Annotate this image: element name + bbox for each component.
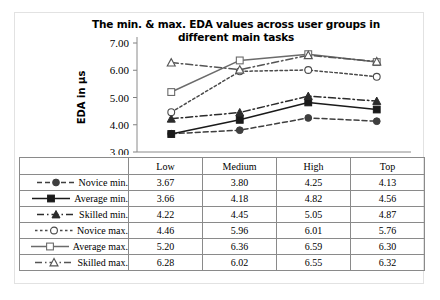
table-cell: 4.22 bbox=[129, 207, 203, 223]
data-table: LowMediumHighTop Novice min.3.673.804.25… bbox=[19, 157, 425, 271]
legend-key-filled-circle-icon bbox=[36, 177, 76, 188]
table-row: Novice max.4.465.966.015.76 bbox=[20, 223, 425, 239]
table-cell: 6.28 bbox=[129, 255, 203, 271]
legend-label: Average min. bbox=[74, 193, 128, 204]
svg-text:4.00: 4.00 bbox=[110, 119, 130, 131]
legend-entry: Skilled max. bbox=[20, 255, 129, 271]
table-cell: 4.56 bbox=[351, 191, 425, 207]
plot-area: EDA in µs 3.004.005.006.007.00 bbox=[15, 13, 423, 155]
svg-text:6.00: 6.00 bbox=[110, 64, 130, 76]
series-line bbox=[171, 118, 377, 134]
table-cell: 4.13 bbox=[351, 175, 425, 191]
table-column-header: Low bbox=[129, 158, 203, 175]
legend-entry: Skilled min. bbox=[20, 207, 129, 223]
series-line bbox=[171, 102, 377, 134]
table-row: Average min.3.664.184.824.56 bbox=[20, 191, 425, 207]
svg-text:7.00: 7.00 bbox=[110, 37, 130, 49]
legend-key-filled-triangle-icon bbox=[36, 209, 76, 220]
data-table-area: LowMediumHighTop Novice min.3.673.804.25… bbox=[15, 155, 423, 283]
legend-entry: Average min. bbox=[20, 191, 129, 207]
table-cell: 3.67 bbox=[129, 175, 203, 191]
legend-key-open-square-icon bbox=[30, 241, 70, 252]
table-row: Novice min.3.673.804.254.13 bbox=[20, 175, 425, 191]
table-cell: 5.76 bbox=[351, 223, 425, 239]
legend-entry: Novice max. bbox=[20, 223, 129, 239]
legend-key-filled-square-icon bbox=[31, 193, 71, 204]
table-cell: 4.87 bbox=[351, 207, 425, 223]
table-cell: 4.18 bbox=[203, 191, 277, 207]
table-cell: 4.45 bbox=[203, 207, 277, 223]
table-column-header: Top bbox=[351, 158, 425, 175]
table-cell: 4.25 bbox=[277, 175, 351, 191]
table-body: Novice min.3.673.804.254.13Average min.3… bbox=[20, 175, 425, 271]
table-cell: 5.20 bbox=[129, 239, 203, 255]
table-cell: 5.96 bbox=[203, 223, 277, 239]
legend-key-open-circle-icon bbox=[34, 225, 74, 236]
series-line bbox=[171, 96, 377, 119]
table-cell: 6.32 bbox=[351, 255, 425, 271]
table-cell: 6.55 bbox=[277, 255, 351, 271]
legend-label: Average max. bbox=[73, 241, 128, 252]
line-chart-svg: EDA in µs 3.004.005.006.007.00 bbox=[15, 13, 423, 155]
svg-text:5.00: 5.00 bbox=[110, 92, 130, 104]
svg-text:EDA in µs: EDA in µs bbox=[76, 71, 87, 125]
legend-label: Novice max. bbox=[77, 225, 128, 236]
table-row: Skilled min.4.224.455.054.87 bbox=[20, 207, 425, 223]
legend-label: Skilled min. bbox=[79, 209, 128, 220]
legend-entry: Novice min. bbox=[20, 175, 129, 191]
table-header-row: LowMediumHighTop bbox=[20, 158, 425, 175]
table-cell: 6.01 bbox=[277, 223, 351, 239]
table-cell: 5.05 bbox=[277, 207, 351, 223]
legend-entry: Average max. bbox=[20, 239, 129, 255]
table-row: Skilled max.6.286.026.556.32 bbox=[20, 255, 425, 271]
y-axis-tick-labels: 3.004.005.006.007.00 bbox=[110, 37, 137, 155]
table-cell: 3.66 bbox=[129, 191, 203, 207]
table-cell: 4.46 bbox=[129, 223, 203, 239]
axis-lines bbox=[137, 37, 411, 152]
chart-figure: The min. & max. EDA values across user g… bbox=[14, 12, 424, 284]
table-cell: 4.82 bbox=[277, 191, 351, 207]
table-cell: 6.59 bbox=[277, 239, 351, 255]
legend-label: Skilled max. bbox=[77, 257, 128, 268]
y-axis-title: EDA in µs bbox=[76, 71, 87, 125]
table-cell: 6.30 bbox=[351, 239, 425, 255]
table-column-header: Medium bbox=[203, 158, 277, 175]
legend-label: Novice min. bbox=[79, 177, 128, 188]
table-cell: 6.36 bbox=[203, 239, 277, 255]
data-series-group bbox=[167, 51, 381, 138]
table-column-header: High bbox=[277, 158, 351, 175]
table-cell: 3.80 bbox=[203, 175, 277, 191]
svg-text:3.00: 3.00 bbox=[110, 146, 130, 155]
table-cell: 6.02 bbox=[203, 255, 277, 271]
table-corner-cell bbox=[20, 158, 129, 175]
table-row: Average max.5.206.366.596.30 bbox=[20, 239, 425, 255]
legend-key-open-triangle-icon bbox=[34, 257, 74, 268]
